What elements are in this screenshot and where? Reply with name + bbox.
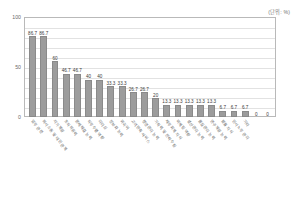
bar-value-label: 6.7 (220, 105, 226, 110)
x-label-slot: 조직적응력 (61, 118, 72, 194)
bar-value-label: 6.7 (231, 105, 237, 110)
bar-value-label: 86.7 (28, 31, 37, 36)
bar-value-label: 13.3 (207, 99, 216, 104)
x-label-slot: 업무 관련 (27, 118, 38, 194)
bar-slot: 26.7 (128, 18, 139, 117)
x-label-slot: 리더십 (94, 118, 105, 194)
bar-slot: 40 (83, 18, 94, 117)
bar[interactable] (40, 36, 47, 117)
bar[interactable] (107, 86, 114, 117)
y-tick-label: 50 (15, 64, 21, 70)
bar[interactable] (52, 61, 59, 117)
bar-value-label: 40 (97, 74, 102, 79)
x-label-slot: 품질관리 능력 (195, 118, 206, 194)
x-label-slot: 기타 (240, 118, 251, 194)
bar[interactable] (85, 80, 92, 117)
bar[interactable] (74, 74, 81, 117)
y-tick-label: 0 (18, 114, 21, 120)
x-label-slot: 생산관리 능력 (184, 118, 195, 194)
bar[interactable] (219, 111, 226, 117)
unit-note: (단위: %) (268, 8, 290, 15)
bar-value-label: 13.3 (196, 99, 205, 104)
bar[interactable] (63, 74, 70, 117)
bar[interactable] (175, 105, 182, 117)
bar[interactable] (96, 80, 103, 117)
x-label-slot: 의사소통 및 대인관계 (38, 118, 49, 194)
bar-slot: 33.3 (105, 18, 116, 117)
x-label-slot: 연구개발 능력 (206, 118, 217, 194)
bar-slot: 13.3 (206, 18, 217, 117)
bar[interactable] (186, 105, 193, 117)
x-label-slot: 고객만족 서비스 (128, 118, 139, 194)
bar-value-label: 20 (153, 93, 158, 98)
bar-value-label: 60 (52, 56, 57, 61)
bar-value-label: 86.7 (39, 31, 48, 36)
bar-value-label: 26.7 (140, 87, 149, 92)
bar-value-label: 0 (255, 112, 258, 117)
bar-slot: 6.7 (228, 18, 239, 117)
x-label-slot: 정보화 능력 (105, 118, 116, 194)
bar-value-label: 26.7 (129, 87, 138, 92)
bar-slot: 26.7 (139, 18, 150, 117)
bar-slot: 0 (251, 18, 262, 117)
bar-slot: 46.7 (72, 18, 83, 117)
x-label-slot: 법률 지식 (217, 118, 228, 194)
bar-value-label: 13.3 (162, 99, 171, 104)
bar[interactable] (119, 86, 126, 117)
x-axis-tick-label: 기타 (242, 119, 250, 128)
bar-slot: 13.3 (184, 18, 195, 117)
bar[interactable] (197, 105, 204, 117)
x-label-slot: 인사노무 관리 (228, 118, 239, 194)
bar-slot: 0 (262, 18, 273, 117)
bar-slot: 13.3 (195, 18, 206, 117)
bar-value-label: 6.7 (242, 105, 248, 110)
bar-value-label: 33.3 (118, 81, 127, 86)
bar-series: 86.786.76046.746.7404033.333.326.726.720… (25, 18, 275, 117)
bar-slot: 6.7 (217, 18, 228, 117)
bar-slot: 20 (150, 18, 161, 117)
bar-slot: 86.7 (27, 18, 38, 117)
bar[interactable] (231, 111, 238, 117)
x-label-slot: 문제해결 능력 (72, 118, 83, 194)
x-label-slot: 직무수행 역량 (83, 118, 94, 194)
bar-slot: 6.7 (240, 18, 251, 117)
x-label-slot: 자기계발 (49, 118, 60, 194)
bar-slot: 86.7 (38, 18, 49, 117)
bar-slot: 46.7 (61, 18, 72, 117)
bar[interactable] (242, 111, 249, 117)
chart-root: (단위: %) 100500 86.786.76046.746.7404033.… (0, 0, 298, 197)
bar-slot: 13.3 (161, 18, 172, 117)
bar[interactable] (208, 105, 215, 117)
bar[interactable] (152, 98, 159, 117)
bar-slot: 33.3 (117, 18, 128, 117)
x-label-slot: 마케팅 역량 (172, 118, 183, 194)
y-axis: 100500 (0, 17, 24, 117)
bar-value-label: 40 (86, 74, 91, 79)
x-label-slot: 기획력 및 전략수립 (150, 118, 161, 194)
bar-value-label: 13.3 (174, 99, 183, 104)
x-label-slot (251, 118, 262, 194)
bar[interactable] (141, 92, 148, 117)
bar-value-label: 13.3 (185, 99, 194, 104)
y-tick-label: 100 (12, 14, 21, 20)
bar-value-label: 46.7 (73, 68, 82, 73)
bar[interactable] (130, 92, 137, 117)
x-label-slot (262, 118, 273, 194)
bar-value-label: 0 (266, 112, 269, 117)
bar-value-label: 46.7 (62, 68, 71, 73)
x-axis-labels: 업무 관련의사소통 및 대인관계자기계발조직적응력문제해결 능력직무수행 역량리… (25, 118, 275, 194)
bar[interactable] (29, 36, 36, 117)
bar-value-label: 33.3 (106, 81, 115, 86)
x-label-slot: 재무회계 지식 (161, 118, 172, 194)
bar-slot: 40 (94, 18, 105, 117)
x-label-slot: 경영관리 능력 (139, 118, 150, 194)
bar[interactable] (163, 105, 170, 117)
x-label-slot: 외국어 (117, 118, 128, 194)
bar-slot: 13.3 (172, 18, 183, 117)
bar-slot: 60 (49, 18, 60, 117)
